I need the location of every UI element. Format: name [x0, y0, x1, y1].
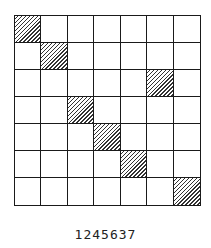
grid-cell	[68, 70, 94, 97]
grid-cell	[68, 16, 94, 43]
grid-cell	[41, 16, 67, 43]
grid-cell	[147, 97, 173, 124]
grid-cell	[174, 97, 200, 124]
hatched-cell	[121, 151, 147, 178]
grid-cell	[15, 97, 41, 124]
grid-cell	[121, 178, 147, 205]
grid-cell	[15, 178, 41, 205]
grid-cell	[68, 43, 94, 70]
grid-cell	[174, 16, 200, 43]
grid-cell	[41, 151, 67, 178]
grid-cell	[41, 97, 67, 124]
sequence-caption: 1245637	[0, 227, 211, 242]
grid-cell	[147, 151, 173, 178]
grid-cell	[121, 124, 147, 151]
grid-cell	[121, 70, 147, 97]
permutation-grid	[14, 15, 201, 206]
grid-cell	[94, 97, 120, 124]
grid-cell	[174, 70, 200, 97]
grid-cell	[94, 70, 120, 97]
grid-cell	[174, 43, 200, 70]
grid-cell	[41, 70, 67, 97]
grid-cell	[174, 151, 200, 178]
hatched-cell	[147, 70, 173, 97]
hatched-cell	[68, 97, 94, 124]
grid-cell	[121, 16, 147, 43]
grid-cell	[147, 178, 173, 205]
grid-cell	[41, 124, 67, 151]
hatched-cell	[41, 43, 67, 70]
grid-cell	[68, 151, 94, 178]
grid-cell	[147, 43, 173, 70]
grid-cell	[94, 43, 120, 70]
grid-cell	[121, 97, 147, 124]
hatched-cell	[94, 124, 120, 151]
grid-cell	[68, 124, 94, 151]
grid-cell	[94, 178, 120, 205]
grid-cell	[41, 178, 67, 205]
grid-cell	[94, 151, 120, 178]
grid-cell	[15, 43, 41, 70]
grid-cell	[174, 124, 200, 151]
grid-cell	[94, 16, 120, 43]
grid-cell	[147, 16, 173, 43]
grid-cell	[15, 151, 41, 178]
grid-cell	[121, 43, 147, 70]
hatched-cell	[174, 178, 200, 205]
grid-cell	[68, 178, 94, 205]
grid-cell	[15, 70, 41, 97]
grid-cell	[15, 124, 41, 151]
grid-cell	[147, 124, 173, 151]
hatched-cell	[15, 16, 41, 43]
